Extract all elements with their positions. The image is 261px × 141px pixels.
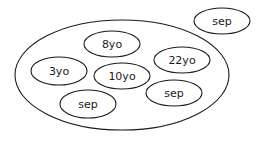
node-label: 3yo: [49, 65, 70, 78]
set-diagram: 8yo 22yo 3yo 10yo sep sep sep: [0, 0, 261, 141]
node-3yo: 3yo: [31, 57, 87, 85]
node-label: 8yo: [102, 38, 123, 51]
node-10yo: 10yo: [94, 63, 150, 89]
node-label: 10yo: [108, 70, 136, 83]
node-label: sep: [78, 98, 97, 111]
node-label: sep: [164, 87, 183, 100]
node-22yo: 22yo: [154, 47, 210, 73]
node-label: 22yo: [168, 54, 196, 67]
node-sep-outer: sep: [194, 8, 250, 34]
node-label: sep: [212, 15, 231, 28]
node-sep-inner-right: sep: [146, 80, 202, 106]
node-8yo: 8yo: [84, 31, 140, 57]
node-sep-inner-left: sep: [60, 90, 116, 118]
